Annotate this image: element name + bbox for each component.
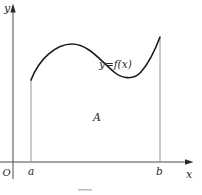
curve-equation-label: y=f(x) <box>98 58 132 70</box>
figure-svg: y O a b x y=f(x) A <box>0 0 202 195</box>
function-curve <box>31 37 160 80</box>
x-axis-arrowhead-icon <box>185 159 194 164</box>
y-axis-label: y <box>3 2 11 15</box>
origin-label: O <box>3 167 11 178</box>
y-axis-arrowhead-icon <box>10 4 15 13</box>
region-area-label: A <box>92 111 101 124</box>
interval-left-label: a <box>28 165 34 177</box>
interval-right-label: b <box>156 165 163 177</box>
x-axis-label: x <box>186 168 193 181</box>
area-under-curve-figure: y O a b x y=f(x) A <box>0 0 202 195</box>
caption-cutoff-mark <box>78 189 92 191</box>
